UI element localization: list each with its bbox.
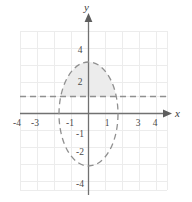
graph-figure: x y -4 -3 -1 1 3 4 4 2 -1 -2 -4 (0, 0, 192, 202)
x-tick-label: 4 (153, 118, 158, 128)
y-tick-label: -1 (76, 129, 84, 139)
x-tick-label: 1 (105, 118, 110, 128)
x-axis-label: x (174, 107, 180, 119)
x-tick-label: -1 (66, 118, 74, 128)
axes (20, 22, 163, 195)
y-axis-arrow (85, 13, 93, 22)
x-tick-label: -4 (13, 118, 21, 128)
y-axis-label: y (83, 1, 89, 13)
coordinate-plane-svg: x y -4 -3 -1 1 3 4 4 2 -1 -2 -4 (0, 0, 192, 202)
x-tick-label: -3 (31, 118, 39, 128)
y-tick-label: -4 (76, 179, 84, 189)
y-tick-label: 4 (78, 45, 83, 55)
x-tick-label: 3 (136, 118, 141, 128)
grid-lines (20, 31, 168, 191)
x-tick-labels: -4 -3 -1 1 3 4 (13, 118, 158, 128)
y-tick-label: 2 (78, 77, 83, 87)
y-tick-label: -2 (76, 147, 84, 157)
